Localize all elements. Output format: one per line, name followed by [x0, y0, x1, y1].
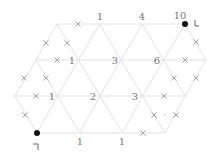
clue-number: 3	[132, 91, 138, 102]
grid-edge[interactable]	[121, 24, 142, 60]
endpoint-dot	[182, 21, 188, 27]
grid-edge[interactable]	[58, 96, 80, 133]
grid-edge[interactable]	[15, 60, 36, 96]
clue-number: 2	[90, 91, 96, 102]
clue-number: 1	[97, 11, 103, 22]
cross-mark	[151, 112, 156, 117]
clue-number: 1	[77, 136, 83, 147]
grid-edge[interactable]	[100, 96, 122, 133]
corner-marks	[33, 20, 199, 150]
bottom-left-corner-mark	[33, 144, 38, 150]
cross-mark	[171, 75, 176, 80]
endpoint-dots	[34, 21, 188, 136]
clue-numbers: 141013612311	[49, 10, 187, 147]
cross-mark	[43, 40, 48, 45]
clue-number: 4	[139, 11, 145, 22]
grid-edge[interactable]	[164, 24, 186, 60]
grid-edge[interactable]	[79, 24, 100, 60]
puzzle-board[interactable]: 141013612311	[0, 0, 221, 158]
clue-number: 1	[49, 91, 55, 102]
clue-number: 1	[69, 55, 75, 66]
clue-number: 3	[112, 55, 118, 66]
clue-number: 10	[174, 10, 187, 21]
clue-number: 1	[119, 136, 125, 147]
small-dot	[164, 114, 166, 116]
clue-number: 6	[154, 55, 160, 66]
top-right-corner-mark	[195, 20, 199, 26]
endpoint-dot	[34, 130, 40, 136]
